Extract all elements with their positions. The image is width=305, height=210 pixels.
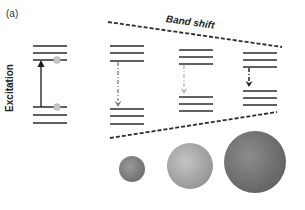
medium-sphere: [167, 143, 213, 189]
excitation-arrow: [38, 60, 45, 107]
small-emission-arrow: [115, 62, 122, 107]
excited-electron: [54, 57, 61, 64]
excitation-label: Excitation: [4, 64, 15, 112]
small-sphere: [119, 156, 145, 182]
small-particle-levels: [110, 46, 144, 124]
large-emission-arrow: [246, 68, 253, 87]
diagram-stage: (a) Excitation Band shift: [0, 0, 305, 210]
large-particle-levels: [243, 53, 277, 105]
energy-band-diagram: [0, 0, 305, 210]
medium-emission-arrow: [181, 65, 188, 94]
ground-levels: [33, 46, 67, 123]
panel-label: (a): [6, 8, 18, 19]
hole: [54, 104, 61, 111]
large-sphere: [224, 131, 286, 193]
